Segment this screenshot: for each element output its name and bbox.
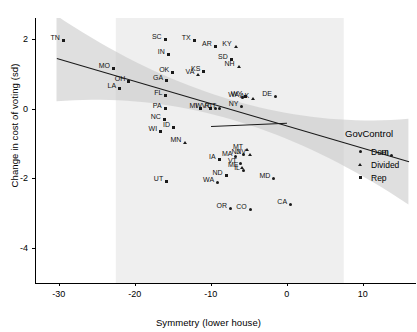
data-point-label: UT bbox=[154, 175, 163, 182]
x-axis-line bbox=[35, 283, 416, 284]
square-marker-icon bbox=[225, 174, 228, 177]
data-point-label: LA bbox=[108, 82, 117, 89]
square-marker-icon bbox=[159, 130, 162, 133]
legend-key bbox=[355, 150, 365, 153]
square-marker-icon bbox=[172, 126, 175, 129]
square-marker-icon bbox=[62, 39, 65, 42]
data-point-label: NV bbox=[236, 148, 246, 155]
square-marker-icon bbox=[359, 176, 362, 179]
data-point-label: CT bbox=[207, 102, 216, 109]
data-point-label: NY bbox=[229, 100, 239, 107]
data-point-label: WA bbox=[203, 176, 214, 183]
square-marker-icon bbox=[165, 180, 168, 183]
y-axis-line bbox=[35, 18, 36, 284]
circle-marker-icon bbox=[274, 95, 277, 98]
scatter-plot-figure: TNMOOHLASCINOKGAFLPANCIDWIMNUTTXVAKSMIWV… bbox=[0, 0, 417, 332]
x-tick-mark bbox=[135, 283, 136, 286]
x-tick-label: -30 bbox=[52, 289, 65, 299]
data-point-label: NC bbox=[151, 113, 161, 120]
data-point-label: TN bbox=[50, 34, 59, 41]
data-point-label: ND bbox=[212, 169, 222, 176]
square-marker-icon bbox=[165, 79, 168, 82]
square-marker-icon bbox=[164, 38, 167, 41]
data-point-label: NH bbox=[224, 60, 234, 67]
x-tick-label: 0 bbox=[284, 289, 289, 299]
triangle-marker-icon bbox=[251, 97, 255, 100]
square-marker-icon bbox=[112, 67, 115, 70]
triangle-marker-icon bbox=[234, 45, 238, 48]
square-marker-icon bbox=[171, 71, 174, 74]
legend-key bbox=[355, 163, 365, 166]
circle-marker-icon bbox=[242, 169, 245, 172]
triangle-marker-icon bbox=[237, 65, 241, 68]
circle-marker-icon bbox=[359, 150, 362, 153]
x-tick-mark bbox=[211, 283, 212, 286]
data-point-label: WI bbox=[149, 125, 158, 132]
square-marker-icon bbox=[218, 158, 221, 161]
legend-key bbox=[355, 176, 365, 179]
square-marker-icon bbox=[164, 107, 167, 110]
triangle-marker-icon bbox=[196, 73, 200, 76]
data-point-label: AK bbox=[240, 92, 249, 99]
triangle-marker-icon bbox=[358, 163, 362, 166]
data-point-label: OR bbox=[217, 202, 228, 209]
y-tick-mark bbox=[32, 248, 35, 249]
square-marker-icon bbox=[118, 87, 121, 90]
legend-label: Divided bbox=[371, 160, 399, 170]
x-tick-mark bbox=[287, 283, 288, 286]
y-tick-mark bbox=[32, 178, 35, 179]
data-point-label: OK bbox=[159, 66, 169, 73]
x-tick-mark bbox=[363, 283, 364, 286]
x-tick-mark bbox=[59, 283, 60, 286]
square-marker-icon bbox=[127, 80, 130, 83]
data-point-label: IA bbox=[209, 153, 216, 160]
square-marker-icon bbox=[164, 94, 167, 97]
data-point-label: KS bbox=[191, 65, 200, 72]
y-axis-title: Change in cost of voting (sd) bbox=[9, 26, 20, 226]
legend-item-rep[interactable]: Rep bbox=[355, 171, 415, 184]
circle-marker-icon bbox=[229, 207, 232, 210]
data-point-label: KY bbox=[222, 40, 231, 47]
square-marker-icon bbox=[193, 39, 196, 42]
legend-title: GovControl bbox=[345, 128, 415, 139]
data-point-label: GA bbox=[153, 74, 163, 81]
x-tick-label: -10 bbox=[204, 289, 217, 299]
circle-marker-icon bbox=[216, 181, 219, 184]
legend: GovControl DemDividedRep bbox=[343, 128, 415, 184]
data-point-label: OH bbox=[115, 75, 126, 82]
legend-item-divided[interactable]: Divided bbox=[355, 158, 415, 171]
data-point-label: MD bbox=[260, 172, 271, 179]
data-point-label: FL bbox=[154, 89, 162, 96]
data-point-label: DE bbox=[262, 90, 272, 97]
triangle-marker-icon bbox=[183, 141, 187, 144]
y-tick-label: -4 bbox=[6, 243, 28, 253]
data-point-label: IN bbox=[158, 48, 165, 55]
legend-item-dem[interactable]: Dem bbox=[355, 145, 415, 158]
legend-label: Dem bbox=[371, 147, 389, 157]
data-point-label: CA bbox=[277, 198, 287, 205]
x-tick-label: -20 bbox=[128, 289, 141, 299]
data-point-label: MN bbox=[171, 136, 182, 143]
data-point-label: MO bbox=[99, 62, 110, 69]
data-point-label: TX bbox=[182, 34, 191, 41]
circle-marker-icon bbox=[289, 203, 292, 206]
data-point-label: IL bbox=[234, 164, 240, 171]
x-axis-title: Symmetry (lower house) bbox=[0, 317, 417, 328]
data-point-label: CO bbox=[236, 203, 247, 210]
x-tick-label: 10 bbox=[358, 289, 368, 299]
data-point-label: ID bbox=[163, 121, 170, 128]
square-marker-icon bbox=[214, 45, 217, 48]
y-tick-mark bbox=[32, 109, 35, 110]
data-point-label: AR bbox=[202, 40, 212, 47]
legend-entries: DemDividedRep bbox=[343, 145, 415, 184]
square-marker-icon bbox=[167, 53, 170, 56]
legend-label: Rep bbox=[371, 173, 387, 183]
data-point-label: SC bbox=[152, 33, 162, 40]
square-marker-icon bbox=[202, 70, 205, 73]
y-tick-mark bbox=[32, 39, 35, 40]
data-point-label: PA bbox=[153, 102, 162, 109]
triangle-marker-icon bbox=[248, 153, 252, 156]
